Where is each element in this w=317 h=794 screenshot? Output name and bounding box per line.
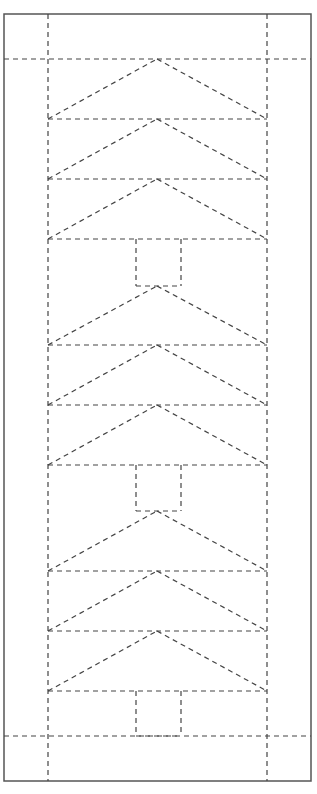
tree-2 (48, 286, 267, 511)
tier-right-edge (157, 631, 267, 691)
tier-right-edge (157, 345, 267, 405)
tier-right-edge (157, 511, 267, 571)
tier-left-edge (48, 511, 157, 571)
cut-guides (4, 14, 311, 781)
tier-left-edge (48, 286, 157, 345)
tier-left-edge (48, 119, 157, 179)
tier-left-edge (48, 179, 157, 239)
tree-3 (48, 511, 267, 736)
tier-right-edge (157, 179, 267, 239)
tree-1 (48, 59, 267, 286)
tier-left-edge (48, 405, 157, 465)
tier-left-edge (48, 59, 157, 119)
tier-left-edge (48, 631, 157, 691)
tier-right-edge (157, 119, 267, 179)
tier-left-edge (48, 345, 157, 405)
tier-right-edge (157, 286, 267, 345)
tier-right-edge (157, 59, 267, 119)
outer-border (4, 14, 311, 781)
tier-right-edge (157, 405, 267, 465)
tier-left-edge (48, 571, 157, 631)
tree-blocks (48, 59, 267, 736)
tier-right-edge (157, 571, 267, 631)
tree-pattern-diagram (0, 0, 317, 794)
